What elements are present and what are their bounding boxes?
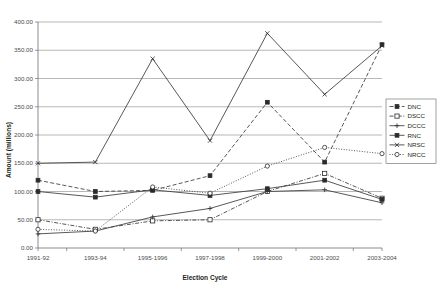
y-axis-tick-labels: 0.0050.00100.00150.00200.00250.00300.003… <box>14 18 33 251</box>
marker-open-circle <box>323 145 327 149</box>
marker-cross <box>323 92 327 96</box>
x-axis-title: Election Cycle <box>182 274 227 282</box>
x-tick-label: 2001-2002 <box>310 254 340 261</box>
legend-label: RNC <box>408 132 422 139</box>
y-tick-label: 50.00 <box>18 216 34 223</box>
marker-filled-square <box>208 174 212 178</box>
y-tick-label: 300.00 <box>14 75 33 82</box>
series-dnc <box>36 43 384 194</box>
legend-label: NRSC <box>408 141 426 148</box>
y-tick-label: 150.00 <box>14 159 33 166</box>
marker-filled-square <box>395 133 399 137</box>
series-path <box>38 45 382 192</box>
marker-open-circle <box>93 229 97 233</box>
chart-legend: DNCDSCCDCCCRNCNRSCNRCC <box>386 99 436 164</box>
legend-label: NRCC <box>408 151 426 158</box>
marker-open-circle <box>151 185 155 189</box>
legend-label: DNC <box>408 103 422 110</box>
axes <box>35 22 382 251</box>
legend-label: DCCC <box>408 122 426 129</box>
marker-plus <box>36 232 41 237</box>
marker-open-square <box>208 218 212 222</box>
line-chart: 0.0050.00100.00150.00200.00250.00300.003… <box>0 0 440 287</box>
marker-open-circle <box>395 152 399 156</box>
chart-canvas: 0.0050.00100.00150.00200.00250.00300.003… <box>0 0 440 287</box>
marker-open-square <box>395 114 399 118</box>
series-path <box>38 33 382 163</box>
marker-open-circle <box>265 164 269 168</box>
x-tick-label: 2003-2004 <box>367 254 397 261</box>
marker-open-square <box>323 171 327 175</box>
marker-cross <box>265 31 269 35</box>
marker-filled-square <box>323 178 327 182</box>
series-nrsc <box>36 31 384 165</box>
legend-label: DSCC <box>408 112 426 119</box>
x-axis-tick-labels: 1991-921993-941995-19961997-19981999-200… <box>27 254 398 261</box>
y-tick-label: 0.00 <box>21 244 34 251</box>
marker-filled-square <box>36 178 40 182</box>
series-dscc <box>36 171 384 231</box>
marker-open-circle <box>36 227 40 231</box>
marker-filled-square <box>380 198 384 202</box>
y-tick-label: 200.00 <box>14 131 33 138</box>
marker-filled-square <box>395 105 399 109</box>
marker-filled-square <box>36 190 40 194</box>
marker-open-square <box>151 219 155 223</box>
marker-cross <box>208 139 212 143</box>
x-tick-label: 1993-94 <box>84 254 107 261</box>
x-tick-label: 1995-1996 <box>138 254 168 261</box>
x-tick-label: 1999-2000 <box>253 254 283 261</box>
y-tick-label: 100.00 <box>14 188 33 195</box>
x-tick-label: 1997-1998 <box>195 254 225 261</box>
y-tick-label: 350.00 <box>14 46 33 53</box>
marker-plus <box>208 206 213 211</box>
marker-open-circle <box>208 191 212 195</box>
marker-filled-square <box>265 187 269 191</box>
x-tick-label: 1991-92 <box>27 254 50 261</box>
y-tick-label: 400.00 <box>14 18 33 25</box>
marker-filled-square <box>93 195 97 199</box>
y-tick-label: 250.00 <box>14 103 33 110</box>
marker-cross <box>151 57 155 61</box>
marker-open-square <box>36 218 40 222</box>
marker-filled-square <box>323 160 327 164</box>
marker-filled-square <box>93 190 97 194</box>
y-axis-title: Amount (millions) <box>5 122 13 178</box>
series-lines <box>36 31 385 236</box>
marker-filled-square <box>265 100 269 104</box>
marker-open-circle <box>380 152 384 156</box>
